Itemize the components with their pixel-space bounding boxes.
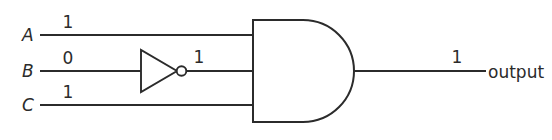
output-label: output <box>488 62 544 82</box>
logic-circuit-diagram: A B C 1 0 1 1 1 output <box>0 0 552 140</box>
circuit-canvas: A B C 1 0 1 1 1 output <box>0 0 552 140</box>
not-gate-bubble-icon <box>177 66 187 76</box>
signal-value-output: 1 <box>452 47 463 67</box>
input-label-a: A <box>21 25 34 45</box>
not-gate-triangle <box>141 50 177 92</box>
input-label-b: B <box>22 61 34 81</box>
input-label-c: C <box>22 95 34 115</box>
signal-value-a: 1 <box>63 12 74 32</box>
signal-value-inverter-output: 1 <box>194 47 205 67</box>
signal-value-c: 1 <box>63 82 74 102</box>
signal-value-b: 0 <box>63 48 74 68</box>
and-gate-body <box>253 20 354 122</box>
